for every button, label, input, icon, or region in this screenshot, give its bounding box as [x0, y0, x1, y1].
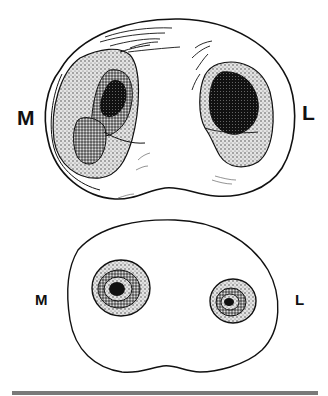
bottom-lateral-label: L	[295, 292, 304, 307]
top-lateral-label: L	[302, 102, 315, 123]
bottom-lateral-rings	[210, 279, 256, 323]
bottom-cross-section	[68, 220, 278, 373]
bottom-medial-rings	[92, 260, 150, 316]
anatomical-diagram	[0, 0, 328, 396]
bottom-medial-label: M	[35, 292, 48, 307]
top-cross-section	[45, 19, 294, 199]
top-medial-label: M	[17, 107, 35, 128]
top-medial-lower-zone	[74, 118, 107, 164]
bottom-divider-bar	[12, 391, 318, 395]
